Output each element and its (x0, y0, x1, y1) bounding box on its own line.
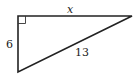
right-angle-marker (18, 16, 26, 24)
label-hypotenuse: 13 (75, 46, 89, 59)
label-top-side: x (67, 3, 74, 16)
label-left-side: 6 (6, 38, 13, 51)
right-triangle (18, 16, 132, 72)
triangle-diagram: x 6 13 (0, 0, 137, 78)
